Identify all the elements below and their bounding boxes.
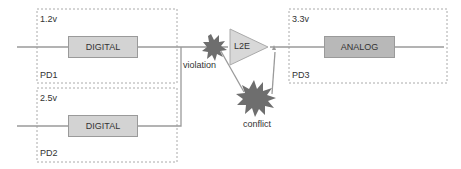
conflict-star-icon <box>236 80 276 117</box>
pd3-analog-block: ANALOG <box>324 36 395 58</box>
violation-label: violation <box>183 60 216 70</box>
conflict-label: conflict <box>243 119 271 129</box>
pd1-digital-block: DIGITAL <box>68 36 138 58</box>
pd2-digital-block: DIGITAL <box>68 115 138 137</box>
l2e-label: L2E <box>234 41 250 51</box>
pd1-voltage: 1.2v <box>40 14 57 24</box>
pd1-label: PD1 <box>40 70 58 80</box>
pd3-voltage: 3.3v <box>292 14 309 24</box>
pd2-voltage: 2.5v <box>40 93 57 103</box>
pd3-label: PD3 <box>292 70 310 80</box>
diagram-canvas <box>0 0 461 169</box>
pd2-label: PD2 <box>40 148 58 158</box>
